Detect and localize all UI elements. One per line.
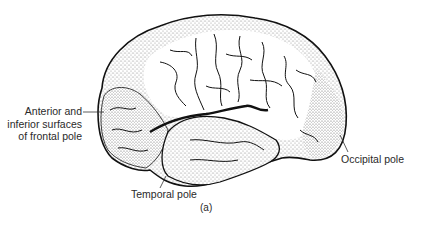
frontal-pole-label: Anterior and inferior surfaces of fronta… [0, 105, 82, 143]
temporal-pole-label: Temporal pole [131, 188, 197, 201]
frontal-label-line-1: Anterior and [0, 105, 82, 118]
occipital-pole-label: Occipital pole [341, 153, 404, 166]
frontal-label-line-3: of frontal pole [0, 130, 82, 143]
frontal-label-line-2: inferior surfaces [0, 118, 82, 131]
figure-caption: (a) [200, 202, 212, 215]
